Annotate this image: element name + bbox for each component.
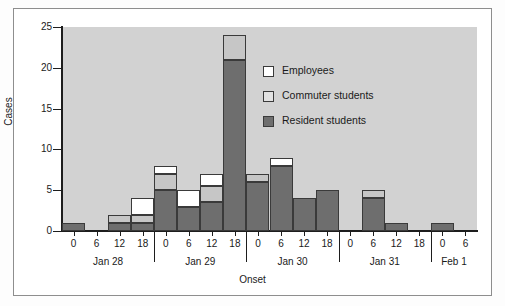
y-axis-tick (53, 190, 62, 191)
bar-segment-resident (108, 223, 131, 231)
legend-swatch-commuter (263, 91, 274, 102)
bar-segment-resident (316, 190, 339, 231)
x-axis-tick (281, 231, 282, 236)
x-axis-day-label: Jan 30 (263, 256, 323, 267)
x-axis-hour-label: 6 (455, 238, 475, 249)
y-axis-tick (53, 149, 62, 150)
x-axis-tick (304, 231, 305, 236)
y-axis-tick-label: 0 (26, 226, 52, 236)
bar-segment-resident (62, 223, 85, 231)
bar-jan-28-0 (62, 223, 85, 231)
bar-segment-employee (200, 174, 223, 186)
x-axis-tick (189, 231, 190, 236)
bar-segment-commuter (154, 174, 177, 190)
bar-segment-resident (154, 190, 177, 231)
x-axis-hour-label: 12 (294, 238, 314, 249)
legend-swatch-employee (263, 66, 274, 77)
x-axis-hour-label: 6 (87, 238, 107, 249)
bar-jan-30-18 (316, 190, 339, 231)
bar-segment-employee (131, 198, 154, 214)
legend-swatch-resident (263, 116, 274, 127)
x-axis-hour-label: 12 (202, 238, 222, 249)
bar-jan-29-6 (177, 190, 200, 231)
x-axis-day-label: Jan 29 (170, 256, 230, 267)
y-axis-tick (53, 27, 62, 28)
bar-jan-28-12 (108, 215, 131, 231)
bar-jan-29-0 (154, 166, 177, 231)
x-axis-hour-label: 18 (225, 238, 245, 249)
bar-jan-31-12 (385, 223, 408, 231)
x-axis-day-label: Jan 31 (355, 256, 415, 267)
bar-segment-resident (177, 207, 200, 231)
chart-figure: 0510152025 Cases Onset EmployeesCommuter… (0, 0, 505, 306)
y-axis-title: Cases (3, 97, 14, 125)
x-axis-day-separator (154, 231, 155, 262)
bar-segment-resident (246, 182, 269, 231)
bar-segment-resident (431, 223, 454, 231)
x-axis-hour-label: 6 (179, 238, 199, 249)
x-axis-hour-label: 0 (340, 238, 360, 249)
x-axis-tick (235, 231, 236, 236)
x-axis-tick (419, 231, 420, 236)
y-axis-tick-label: 25 (26, 22, 52, 32)
legend-label: Employees (282, 64, 334, 77)
y-axis-tick-label: 5 (26, 185, 52, 195)
x-axis-hour-label: 6 (271, 238, 291, 249)
x-axis-hour-label: 12 (386, 238, 406, 249)
x-axis-hour-label: 6 (363, 238, 383, 249)
legend-label: Resident students (282, 114, 366, 127)
bar-segment-resident (131, 223, 154, 231)
bar-segment-resident (362, 198, 385, 231)
bar-segment-resident (200, 202, 223, 231)
x-axis-hour-label: 12 (110, 238, 130, 249)
bar-jan-28-18 (131, 198, 154, 231)
x-axis-day-separator (339, 231, 340, 262)
x-axis-tick (143, 231, 144, 236)
legend-label: Commuter students (282, 89, 374, 102)
x-axis-title: Onset (0, 274, 505, 285)
bar-jan-31-6 (362, 190, 385, 231)
bar-jan-30-6 (270, 158, 293, 231)
x-axis-tick (166, 231, 167, 236)
x-axis-hour-label: 0 (64, 238, 84, 249)
bar-segment-employee (177, 190, 200, 206)
x-axis-day-separator (246, 231, 247, 262)
bar-jan-29-18 (223, 35, 246, 231)
x-axis-hour-label: 0 (432, 238, 452, 249)
x-axis-tick (465, 231, 466, 236)
bar-segment-resident (223, 60, 246, 231)
y-axis-tick-label: 15 (26, 104, 52, 114)
x-axis-tick (350, 231, 351, 236)
bar-segment-commuter (131, 215, 154, 223)
y-axis-tick (53, 109, 62, 110)
bar-segment-commuter (246, 174, 269, 182)
x-axis-hour-label: 18 (133, 238, 153, 249)
bar-segment-commuter (200, 186, 223, 202)
bar-segment-employee (154, 166, 177, 174)
bar-segment-commuter (362, 190, 385, 198)
legend-item: Employees (263, 63, 413, 88)
bar-feb-1-0 (431, 223, 454, 231)
x-axis-tick (396, 231, 397, 236)
bar-jan-30-12 (293, 198, 316, 231)
bar-jan-30-0 (246, 174, 269, 231)
x-axis-tick (258, 231, 259, 236)
x-axis-tick (97, 231, 98, 236)
x-axis-day-label: Feb 1 (424, 256, 484, 267)
y-axis-tick-label: 10 (26, 144, 52, 154)
x-axis-tick (327, 231, 328, 236)
bar-segment-resident (385, 223, 408, 231)
y-axis-labels: 0510152025 (22, 0, 52, 260)
bar-segment-employee (270, 158, 293, 166)
x-axis-tick (74, 231, 75, 236)
legend-item: Resident students (263, 113, 413, 138)
bar-segment-resident (270, 166, 293, 231)
x-axis-hour-label: 18 (409, 238, 429, 249)
bar-segment-commuter (108, 215, 131, 223)
x-axis-tick (120, 231, 121, 236)
y-axis-tick (53, 68, 62, 69)
bar-segment-commuter (223, 35, 246, 59)
x-axis-tick (442, 231, 443, 236)
x-axis-hour-label: 0 (156, 238, 176, 249)
chart-legend: EmployeesCommuter studentsResident stude… (263, 63, 413, 138)
